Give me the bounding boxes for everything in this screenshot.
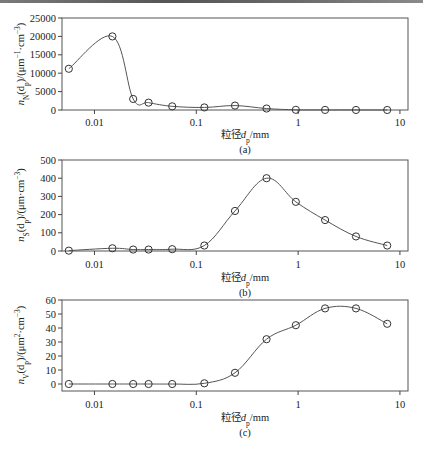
y-axis-label: nN(dp)/(μm−1·cm−3) <box>13 22 31 105</box>
y-tick-label: 20000 <box>30 31 56 42</box>
y-tick-label: 20 <box>46 351 57 362</box>
y-tick-label: 10000 <box>30 68 56 79</box>
y-tick-label: 300 <box>40 191 56 202</box>
y-tick-label: 100 <box>40 227 56 238</box>
figure: 05000100001500020000250000.010.1110nN(dp… <box>0 0 423 453</box>
y-axis-label: nS(dp)/(μm·cm−3) <box>13 168 31 242</box>
x-axis-label: 粒径dp/mm <box>221 271 269 288</box>
data-curve <box>69 36 387 110</box>
x-tick-label: 0.01 <box>85 399 103 410</box>
y-tick-label: 400 <box>40 173 56 184</box>
x-axis-label: 粒径dp/mm <box>221 411 269 428</box>
x-tick-label: 10 <box>395 399 406 410</box>
y-tick-label: 25000 <box>30 13 56 24</box>
y-tick-label: 0 <box>51 105 56 116</box>
plot-frame <box>62 300 408 391</box>
panel-label: (b) <box>239 287 252 299</box>
y-tick-label: 0 <box>51 379 56 390</box>
plot-frame <box>62 160 408 251</box>
y-tick-label: 200 <box>40 209 56 220</box>
y-tick-label: 60 <box>46 295 57 306</box>
y-tick-label: 40 <box>46 323 57 334</box>
y-tick-label: 10 <box>46 365 57 376</box>
x-tick-label: 10 <box>395 259 406 270</box>
data-curve <box>69 306 387 384</box>
x-axis-label: 粒径dp/mm <box>221 128 269 145</box>
y-tick-label: 50 <box>46 309 57 320</box>
y-tick-label: 0 <box>51 246 56 257</box>
panel-label: (a) <box>239 144 251 156</box>
x-tick-label: 0.01 <box>85 259 103 270</box>
y-tick-label: 500 <box>40 155 56 166</box>
x-tick-label: 10 <box>395 117 406 128</box>
chart-panel-a: 05000100001500020000250000.010.1110nN(dp… <box>13 13 409 157</box>
x-tick-label: 1 <box>295 117 300 128</box>
y-tick-label: 15000 <box>30 49 56 60</box>
chart-panel-c: 01020304050600.010.1110nV(dp)/(μm2·cm−3)… <box>13 295 409 440</box>
y-axis-label: nV(dp)/(μm2·cm−3) <box>13 305 31 384</box>
x-tick-label: 1 <box>295 259 300 270</box>
y-tick-label: 30 <box>46 337 57 348</box>
chart-panel-b: 01002003004005000.010.1110nS(dp)/(μm·cm−… <box>13 155 409 300</box>
y-tick-label: 5000 <box>35 86 56 97</box>
x-tick-label: 0.1 <box>190 399 203 410</box>
x-tick-label: 0.1 <box>190 117 203 128</box>
x-tick-label: 0.01 <box>85 117 103 128</box>
x-tick-label: 0.1 <box>190 259 203 270</box>
x-tick-label: 1 <box>295 399 300 410</box>
panel-label: (c) <box>239 427 251 439</box>
data-curve <box>69 178 387 251</box>
plot-frame <box>62 18 408 110</box>
